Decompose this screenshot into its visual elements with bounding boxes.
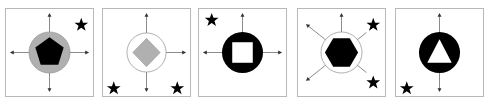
star-icon: [366, 18, 380, 31]
star-icon: [366, 75, 380, 88]
star-icon: [107, 81, 121, 94]
square-icon: [232, 42, 253, 63]
star-icon: [74, 18, 88, 31]
triangle-in-black-circle-figure: [396, 9, 483, 96]
star-icon: [205, 13, 219, 26]
panel-3: [198, 8, 287, 97]
panel-4: [297, 8, 386, 97]
star-icon: [170, 81, 184, 94]
star-icon: [400, 81, 414, 94]
pentagon-in-gray-circle-figure: [6, 9, 93, 96]
square-in-black-circle-figure: [199, 9, 286, 96]
hexagon-in-white-circle-figure: [298, 9, 385, 96]
panel-1: [5, 8, 94, 97]
panel-2: [102, 8, 191, 97]
panel-5: [395, 8, 484, 97]
diamond-in-white-circle-figure: [103, 9, 190, 96]
